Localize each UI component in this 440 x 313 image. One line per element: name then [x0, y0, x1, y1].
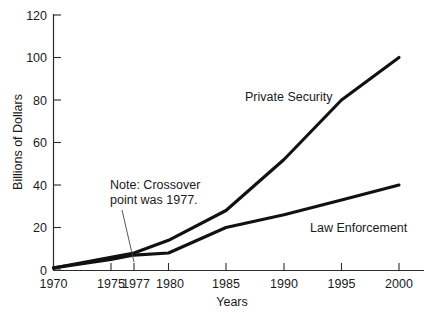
y-axis-title: Billions of Dollars [11, 94, 25, 190]
y-tick-label-100: 100 [26, 51, 47, 65]
x-tick-label-1985: 1985 [212, 277, 240, 291]
x-tick-label-1990: 1990 [270, 277, 298, 291]
x-tick-label-1977: 1977 [122, 277, 150, 291]
y-tick-label-40: 40 [33, 179, 47, 193]
line-chart-canvas: 120 100 80 60 40 20 0 1970 1975 1977 198… [0, 0, 440, 313]
series-line-private-security [54, 58, 400, 268]
x-tick-label-2000: 2000 [385, 277, 413, 291]
x-tick-label-1995: 1995 [328, 277, 356, 291]
y-tick-label-20: 20 [33, 221, 47, 235]
x-tick-label-1975: 1975 [97, 277, 125, 291]
note-text-line-1: Note: Crossover [110, 178, 200, 192]
series-label-private-security: Private Security [245, 90, 333, 104]
series-label-law-enforcement: Law Enforcement [310, 221, 408, 235]
x-tick-label-1970: 1970 [40, 277, 68, 291]
chart-figure: 120 100 80 60 40 20 0 1970 1975 1977 198… [0, 0, 440, 313]
y-tick-label-80: 80 [33, 94, 47, 108]
y-tick-label-60: 60 [33, 136, 47, 150]
x-tick-label-1980: 1980 [156, 277, 184, 291]
note-text-line-2: point was 1977. [110, 193, 198, 207]
y-tick-label-120: 120 [26, 9, 47, 23]
y-tick-label-0: 0 [40, 264, 47, 278]
x-axis-title: Years [216, 295, 248, 309]
